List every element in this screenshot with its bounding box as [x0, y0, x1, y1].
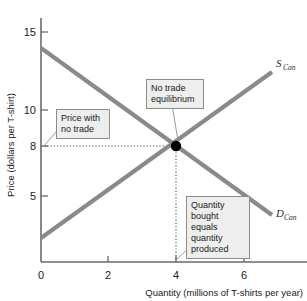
callout-price-with-no-trade: Price with no trade [56, 109, 110, 139]
supply-curve-label-letter: S [276, 57, 282, 69]
y-axis-title: Price (dollars per T-shirt) [5, 93, 16, 197]
callout-no-trade-equilibrium: No trade equilibrium [146, 79, 204, 109]
y-tick-label-15: 15 [24, 26, 36, 38]
leader-line-price-no-trade [44, 132, 56, 146]
x-axis-title: Quantity (millions of T-shirts per year) [145, 287, 303, 298]
leader-line-no-trade-equilibrium [172, 104, 178, 141]
demand-curve-label-subscript: Can [284, 213, 297, 222]
equilibrium-point-marker [171, 141, 181, 151]
y-tick-label-10: 10 [24, 104, 36, 116]
demand-curve-label-letter: D [275, 207, 284, 219]
x-tick-label-0: 0 [38, 269, 44, 281]
x-tick-labels: 0 2 4 6 [38, 269, 247, 281]
x-tick-label-6: 6 [241, 269, 247, 281]
y-tick-label-8: 8 [30, 140, 36, 152]
economics-supply-demand-figure: 15 10 8 5 0 2 4 6 Price (dollars per T-s… [0, 0, 307, 301]
chart-canvas: 15 10 8 5 0 2 4 6 Price (dollars per T-s… [0, 0, 307, 301]
x-tick-label-4: 4 [173, 269, 179, 281]
y-tick-labels: 15 10 8 5 [24, 26, 36, 202]
callout-quantity-bought-equals-quantity-produced: Quantity bought equals quantity produced [186, 196, 250, 259]
x-tick-label-2: 2 [105, 269, 111, 281]
supply-curve-label-subscript: Can [283, 63, 296, 72]
guide-lines [41, 146, 176, 262]
demand-curve-label: D Can [275, 207, 297, 222]
y-tick-label-5: 5 [30, 190, 36, 202]
supply-curve-label: S Can [276, 57, 296, 72]
y-tick-marks [41, 32, 48, 196]
